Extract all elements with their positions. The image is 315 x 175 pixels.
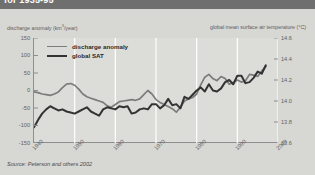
y-tick-label-left: 150 xyxy=(5,35,30,41)
y-tick-label-right: 13.8 xyxy=(281,119,309,125)
figure-title-bar: for 1935-95 xyxy=(0,0,315,9)
figure-title: for 1935-95 xyxy=(4,0,54,5)
x-tick-label: 1970 xyxy=(153,138,166,151)
x-tick-label: 1950 xyxy=(72,138,85,151)
y-tick-label-left: 100 xyxy=(5,52,30,58)
figure-container: for 1935-95 discharge anomaly (km3/year)… xyxy=(0,0,315,175)
tick-label-layer: 150100500-50-100-15014.614.414.214.013.8… xyxy=(0,9,315,175)
y-tick-label-right: 14.0 xyxy=(281,98,309,104)
y-tick-label-right: 14.6 xyxy=(281,35,309,41)
y-tick-label-right: 14.4 xyxy=(281,56,309,62)
x-tick-label: 1990 xyxy=(234,138,247,151)
x-tick-label: 1960 xyxy=(112,138,125,151)
y-tick-label-left: -100 xyxy=(5,122,30,128)
y-tick-label-left: 50 xyxy=(5,70,30,76)
y-tick-label-left: -50 xyxy=(5,105,30,111)
y-tick-label-left: 0 xyxy=(5,87,30,93)
y-tick-label-right: 14.2 xyxy=(281,77,309,83)
x-tick-label: 1940 xyxy=(31,138,44,151)
y-tick-label-left: -150 xyxy=(5,140,30,146)
source-note: Source: Peterson and others 2002 xyxy=(7,161,92,167)
x-tick-label: 1980 xyxy=(194,138,207,151)
chart-card: discharge anomaly (km3/year) global mean… xyxy=(0,9,315,175)
